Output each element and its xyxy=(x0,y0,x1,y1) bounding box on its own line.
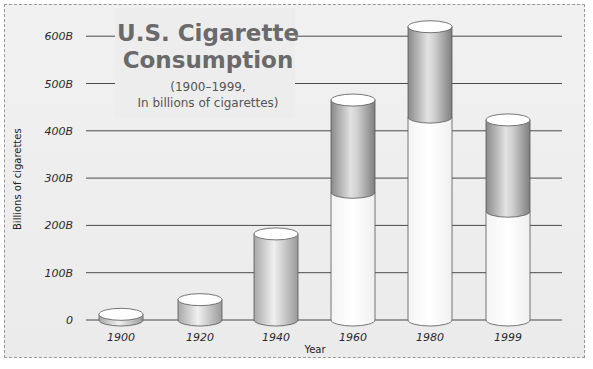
y-tick-label: 0 xyxy=(66,314,73,327)
cylinder-1940 xyxy=(254,228,298,326)
cylinder-bar-chart: 0100B200B300B400B500B600B 19001920194019… xyxy=(0,0,593,369)
y-tick-label: 300B xyxy=(44,172,73,185)
chart-title-line1: U.S. Cigarette xyxy=(117,20,299,46)
chart-title-line2: Consumption xyxy=(123,47,294,73)
y-tick-label: 600B xyxy=(44,30,73,43)
cylinder-1999 xyxy=(486,114,530,326)
x-tick-label: 1980 xyxy=(416,331,444,344)
cylinder-1980 xyxy=(408,21,452,326)
x-tick-label: 1960 xyxy=(339,331,367,344)
x-tick-label: 1940 xyxy=(262,331,290,344)
x-axis-ticks: 190019201940196019801999 xyxy=(107,331,522,344)
y-axis-label: Billions of cigarettes xyxy=(12,128,23,230)
y-tick-label: 100B xyxy=(44,267,73,280)
y-tick-label: 200B xyxy=(44,219,73,232)
y-axis-ticks: 0100B200B300B400B500B600B xyxy=(44,30,73,327)
chart-subtitle-line2: In billions of cigarettes) xyxy=(138,96,279,110)
chart-subtitle-line1: (1900–1999, xyxy=(170,80,246,94)
x-tick-label: 1999 xyxy=(494,331,522,344)
cylinder-1920 xyxy=(178,294,222,326)
cylinder-1960 xyxy=(331,94,375,326)
x-tick-label: 1920 xyxy=(186,331,214,344)
y-tick-label: 500B xyxy=(44,78,73,91)
x-tick-label: 1900 xyxy=(107,331,135,344)
cylinder-1900 xyxy=(99,308,143,326)
y-tick-label: 400B xyxy=(44,125,73,138)
x-axis-label: Year xyxy=(303,344,326,355)
